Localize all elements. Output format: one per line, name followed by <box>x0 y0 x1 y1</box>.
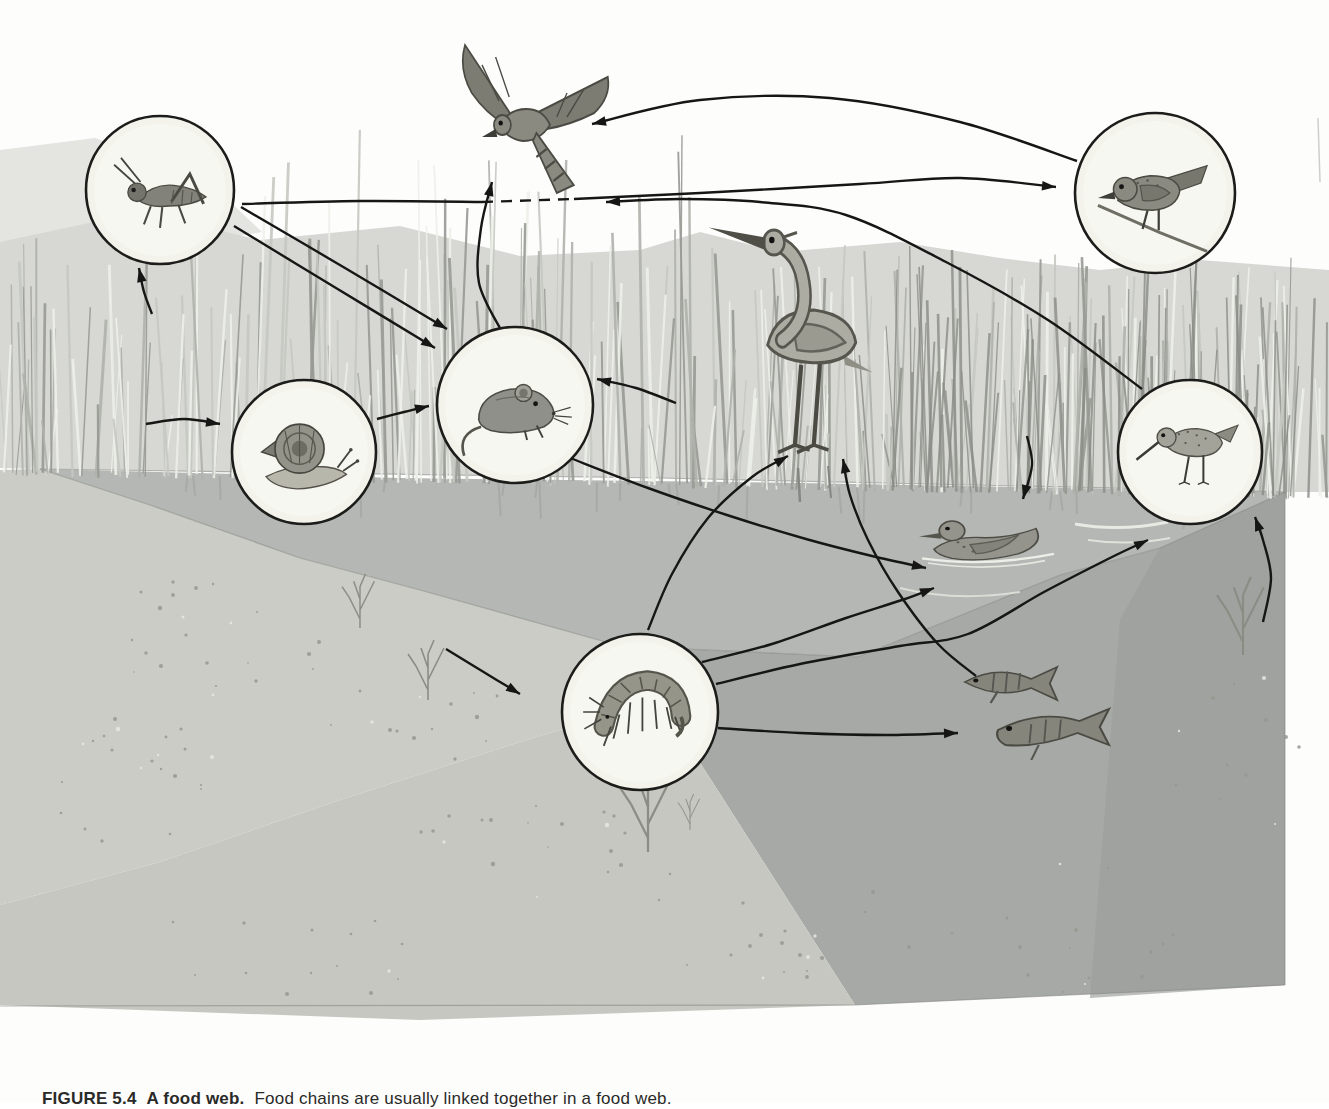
figure-caption-title: A food web. <box>147 1089 245 1108</box>
node-mouse <box>437 327 593 483</box>
duck-icon-part <box>939 521 965 541</box>
sandpiper-icon-part <box>1157 428 1176 447</box>
heron-icon-part <box>769 237 774 244</box>
node-songbird <box>1075 113 1235 273</box>
duck-icon-part <box>963 546 966 548</box>
songbird-icon-part <box>1146 179 1148 181</box>
snail-icon-part <box>349 448 353 452</box>
duck-icon-part <box>972 550 975 552</box>
fish-icon-part <box>1006 726 1012 731</box>
node-sandpiper <box>1118 380 1262 524</box>
node-grasshopper <box>86 116 234 264</box>
figure-caption-text: Food chains are usually linked together … <box>255 1089 672 1108</box>
node-snail <box>232 380 376 524</box>
sandpiper-icon-part <box>1205 437 1207 439</box>
mouse-icon-part <box>519 389 527 397</box>
sandpiper-icon-part <box>1187 431 1189 433</box>
grasshopper-icon-part <box>128 183 146 201</box>
fish-icon-part <box>973 678 978 682</box>
sandpiper-icon-part <box>1178 433 1180 435</box>
sandpiper-icon-part <box>1198 444 1200 446</box>
sandpiper-icon-part <box>1161 433 1165 437</box>
hawk-icon-part <box>494 115 511 135</box>
sandpiper-icon-part <box>1196 434 1198 436</box>
mouse-icon-part <box>533 401 538 406</box>
songbird-icon-part <box>1136 182 1138 184</box>
figure-caption-label: FIGURE 5.4 <box>42 1089 137 1108</box>
node-amphipod <box>562 634 718 790</box>
amphipod-icon-part <box>605 715 609 719</box>
heron-icon-part <box>763 230 784 255</box>
songbird-icon-part <box>1119 184 1124 189</box>
figure-caption: FIGURE 5.4A food web.Food chains are usu… <box>42 1089 1282 1109</box>
snail-icon-part <box>356 459 360 463</box>
duck-icon-part <box>945 527 950 531</box>
songbird-icon-part <box>1156 184 1158 186</box>
sandpiper-icon-part <box>1184 442 1186 444</box>
duck-icon-part <box>957 541 960 543</box>
grasshopper-icon-part <box>131 188 136 193</box>
hawk-icon-part <box>498 120 502 125</box>
songbird-icon-part <box>1113 178 1137 202</box>
mouse-icon-part <box>552 412 556 416</box>
